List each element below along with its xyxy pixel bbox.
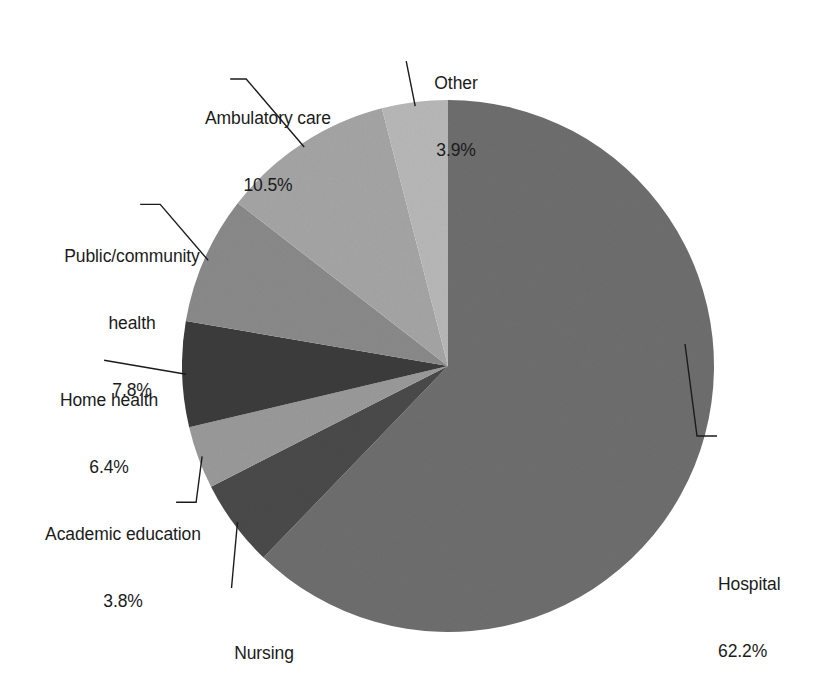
slice-label-hospital-percent: 62.2% (718, 640, 820, 662)
slice-label-nursing-home-extended-care: Nursing home/extended care 5.3% (128, 597, 400, 683)
slice-label-ambulatory-care-name: Ambulatory care (168, 107, 368, 129)
slice-label-ambulatory-care-percent: 10.5% (168, 174, 368, 196)
slice-label-public-community-health-name-line1: Public/community (22, 245, 242, 267)
slice-label-nursing-home-extended-care-name-line1: Nursing (128, 642, 400, 664)
slice-label-academic-education-name: Academic education (8, 523, 238, 545)
slice-label-hospital-name: Hospital (718, 573, 820, 595)
slice-label-home-health-name: Home health (14, 389, 204, 411)
slice-label-home-health-percent: 6.4% (14, 456, 204, 478)
slice-label-other-percent: 3.9% (396, 139, 516, 161)
slice-label-other-name: Other (396, 72, 516, 94)
slice-label-public-community-health-name-line2: health (22, 312, 242, 334)
slice-label-hospital: Hospital 62.2% (718, 528, 820, 683)
slice-label-other: Other 3.9% (396, 27, 516, 206)
pie-chart: Other 3.9% Ambulatory care 10.5% Public/… (0, 0, 820, 683)
